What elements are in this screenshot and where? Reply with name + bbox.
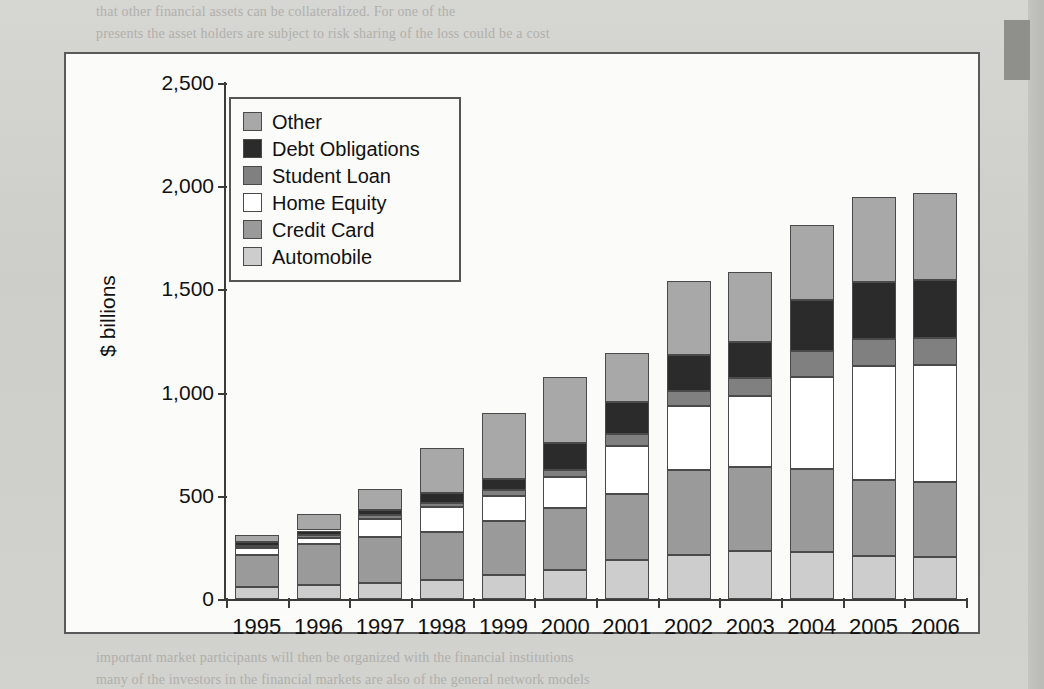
legend-item-student-loan[interactable]: Student Loan bbox=[243, 162, 447, 189]
bar-segment-home-equity[interactable] bbox=[358, 519, 402, 538]
bar-segment-home-equity[interactable] bbox=[605, 446, 649, 493]
y-axis-tick-label: 1,000 bbox=[114, 381, 214, 405]
bar-segment-other[interactable] bbox=[297, 514, 341, 530]
bar-segment-other[interactable] bbox=[482, 413, 526, 478]
bar-segment-debt-obligations[interactable] bbox=[852, 282, 896, 339]
bar-segment-credit-card[interactable] bbox=[482, 521, 526, 576]
bar-segment-automobile[interactable] bbox=[420, 580, 464, 599]
bar-segment-credit-card[interactable] bbox=[667, 470, 711, 555]
bar-segment-debt-obligations[interactable] bbox=[543, 443, 587, 470]
bar-segment-other[interactable] bbox=[790, 225, 834, 300]
bar-segment-home-equity[interactable] bbox=[543, 477, 587, 508]
bar-segment-credit-card[interactable] bbox=[420, 532, 464, 580]
bar-segment-credit-card[interactable] bbox=[543, 508, 587, 570]
bar-segment-debt-obligations[interactable] bbox=[790, 300, 834, 352]
bar-segment-other[interactable] bbox=[235, 535, 279, 542]
legend-swatch-icon bbox=[243, 139, 262, 158]
bar-segment-automobile[interactable] bbox=[482, 575, 526, 599]
legend-item-debt-obligations[interactable]: Debt Obligations bbox=[243, 135, 447, 162]
bar-segment-student-loan[interactable] bbox=[605, 434, 649, 446]
bar-segment-automobile[interactable] bbox=[543, 570, 587, 599]
x-axis-tick bbox=[226, 598, 228, 608]
bar-segment-debt-obligations[interactable] bbox=[728, 342, 772, 378]
legend-item-home-equity[interactable]: Home Equity bbox=[243, 189, 447, 216]
bar-segment-student-loan[interactable] bbox=[667, 391, 711, 406]
bar-segment-student-loan[interactable] bbox=[790, 351, 834, 377]
bar-segment-student-loan[interactable] bbox=[235, 546, 279, 548]
bar-segment-debt-obligations[interactable] bbox=[297, 531, 341, 536]
bar-segment-other[interactable] bbox=[852, 197, 896, 282]
bar-segment-other[interactable] bbox=[358, 489, 402, 511]
bar-2005[interactable] bbox=[852, 83, 896, 599]
bar-segment-credit-card[interactable] bbox=[297, 544, 341, 584]
bar-segment-student-loan[interactable] bbox=[297, 535, 341, 537]
bar-segment-other[interactable] bbox=[667, 281, 711, 355]
y-axis-line bbox=[224, 82, 226, 600]
bar-segment-debt-obligations[interactable] bbox=[358, 510, 402, 515]
bar-segment-student-loan[interactable] bbox=[852, 339, 896, 366]
bar-segment-debt-obligations[interactable] bbox=[420, 493, 464, 503]
bar-segment-student-loan[interactable] bbox=[913, 338, 957, 365]
scan-margin-tab bbox=[1004, 20, 1030, 80]
bar-segment-other[interactable] bbox=[420, 448, 464, 492]
bar-segment-student-loan[interactable] bbox=[728, 378, 772, 396]
bar-segment-debt-obligations[interactable] bbox=[235, 542, 279, 546]
bar-segment-other[interactable] bbox=[605, 353, 649, 402]
bar-segment-credit-card[interactable] bbox=[358, 537, 402, 582]
bar-segment-credit-card[interactable] bbox=[913, 482, 957, 556]
bar-segment-student-loan[interactable] bbox=[358, 515, 402, 518]
bar-segment-automobile[interactable] bbox=[358, 583, 402, 600]
y-axis-tick-label: 0 bbox=[114, 587, 214, 611]
bar-segment-other[interactable] bbox=[543, 377, 587, 443]
bar-segment-home-equity[interactable] bbox=[297, 538, 341, 545]
bar-segment-debt-obligations[interactable] bbox=[667, 355, 711, 390]
bar-segment-automobile[interactable] bbox=[852, 556, 896, 599]
bar-segment-credit-card[interactable] bbox=[790, 469, 834, 552]
bar-segment-student-loan[interactable] bbox=[420, 503, 464, 508]
bar-segment-debt-obligations[interactable] bbox=[913, 280, 957, 338]
bar-2000[interactable] bbox=[543, 83, 587, 599]
legend-item-credit-card[interactable]: Credit Card bbox=[243, 216, 447, 243]
y-axis-tick bbox=[218, 186, 227, 188]
bar-segment-home-equity[interactable] bbox=[913, 365, 957, 483]
bar-2004[interactable] bbox=[790, 83, 834, 599]
bar-segment-home-equity[interactable] bbox=[728, 396, 772, 467]
x-axis-tick bbox=[843, 598, 845, 608]
bar-2006[interactable] bbox=[913, 83, 957, 599]
bar-segment-home-equity[interactable] bbox=[482, 496, 526, 521]
bar-segment-automobile[interactable] bbox=[728, 551, 772, 600]
legend-label: Other bbox=[272, 112, 322, 132]
bar-segment-automobile[interactable] bbox=[913, 557, 957, 599]
legend-item-automobile[interactable]: Automobile bbox=[243, 243, 447, 270]
bar-segment-home-equity[interactable] bbox=[420, 507, 464, 532]
bar-segment-automobile[interactable] bbox=[790, 552, 834, 599]
bar-segment-credit-card[interactable] bbox=[605, 494, 649, 560]
bar-segment-automobile[interactable] bbox=[235, 587, 279, 599]
plot-area: $ billions 05001,0001,5002,0002,500 1995… bbox=[66, 54, 978, 632]
bar-segment-credit-card[interactable] bbox=[728, 467, 772, 551]
x-axis-tick bbox=[596, 598, 598, 608]
bar-2003[interactable] bbox=[728, 83, 772, 599]
bar-segment-student-loan[interactable] bbox=[482, 490, 526, 496]
bar-segment-debt-obligations[interactable] bbox=[605, 402, 649, 434]
bar-segment-student-loan[interactable] bbox=[543, 470, 587, 477]
legend-item-other[interactable]: Other bbox=[243, 108, 447, 135]
bar-segment-credit-card[interactable] bbox=[852, 480, 896, 555]
bar-segment-automobile[interactable] bbox=[297, 585, 341, 599]
bar-segment-other[interactable] bbox=[913, 193, 957, 280]
bar-segment-automobile[interactable] bbox=[605, 560, 649, 599]
bar-segment-home-equity[interactable] bbox=[852, 366, 896, 481]
bleed-line: important market participants will then … bbox=[96, 650, 574, 666]
bar-segment-home-equity[interactable] bbox=[235, 548, 279, 554]
bar-segment-credit-card[interactable] bbox=[235, 555, 279, 587]
bar-segment-other[interactable] bbox=[728, 272, 772, 342]
legend-label: Debt Obligations bbox=[272, 139, 420, 159]
legend-label: Automobile bbox=[272, 247, 372, 267]
bar-segment-home-equity[interactable] bbox=[790, 377, 834, 469]
bar-2002[interactable] bbox=[667, 83, 711, 599]
bar-2001[interactable] bbox=[605, 83, 649, 599]
bar-1999[interactable] bbox=[482, 83, 526, 599]
bar-segment-automobile[interactable] bbox=[667, 555, 711, 599]
bar-segment-debt-obligations[interactable] bbox=[482, 479, 526, 490]
bar-segment-home-equity[interactable] bbox=[667, 406, 711, 470]
